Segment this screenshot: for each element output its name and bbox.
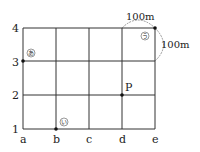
row-label-2: 2 — [12, 89, 19, 102]
point-p-label: P — [125, 81, 133, 94]
col-label-e: e — [152, 133, 159, 146]
point-i-dot — [54, 127, 58, 131]
row-label-3: 3 — [12, 56, 19, 69]
point-u-label: う — [142, 32, 148, 40]
dimension-label-top: 100m — [126, 11, 155, 22]
point-u-dot — [153, 26, 157, 30]
dimension-label-side: 100m — [161, 39, 190, 50]
col-label-a: a — [20, 133, 27, 146]
point-a-dot — [21, 59, 25, 63]
point-i-label: い — [61, 118, 67, 125]
row-label-4: 4 — [12, 22, 19, 35]
point-p-dot — [120, 93, 124, 97]
col-label-b: b — [53, 133, 60, 146]
col-label-c: c — [86, 133, 92, 146]
grid-lines — [23, 28, 155, 129]
col-label-d: d — [119, 133, 126, 146]
row-label-1: 1 — [12, 123, 19, 136]
grid-diagram: 100m 100m 4 3 2 1 a b c d e あ い う P — [0, 0, 200, 152]
point-a-label: あ — [28, 49, 34, 56]
